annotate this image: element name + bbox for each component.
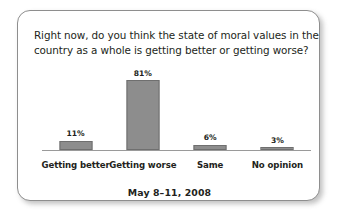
x-axis-line: [42, 150, 311, 151]
chart-screenshot: Right now, do you think the state of mor…: [0, 0, 342, 219]
bar-group: 11%81%6%3%: [42, 74, 311, 150]
question-text: Right now, do you think the state of mor…: [34, 28, 305, 57]
bar-value-label: 11%: [67, 129, 85, 138]
bar-value-label: 6%: [204, 133, 217, 142]
category-label: Getting worse: [109, 160, 176, 170]
bar-value-label: 3%: [271, 136, 284, 145]
bar: [126, 80, 159, 150]
bar-chart-plot: 11%81%6%3%: [22, 74, 317, 159]
category-label: Getting better: [42, 160, 110, 170]
bar-slot: 11%: [42, 74, 109, 150]
poll-result-card: Right now, do you think the state of mor…: [17, 10, 320, 201]
category-label: No opinion: [252, 160, 303, 170]
survey-date: May 8–11, 2008: [34, 187, 305, 198]
category-label-group: Getting betterGetting worseSameNo opinio…: [42, 160, 311, 174]
bar-value-label: 81%: [134, 69, 152, 78]
question-line-1: Right now, do you think the state of mor…: [34, 28, 305, 43]
question-line-2: country as a whole is getting better or …: [34, 43, 305, 58]
bar-slot: 81%: [109, 74, 176, 150]
bar: [59, 141, 92, 151]
bar-slot: 6%: [177, 74, 244, 150]
bar-slot: 3%: [244, 74, 311, 150]
category-label: Same: [197, 160, 223, 170]
